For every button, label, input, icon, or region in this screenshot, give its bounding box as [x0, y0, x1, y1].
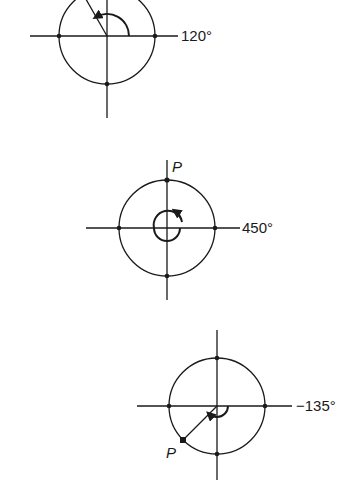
axis-point [57, 34, 62, 39]
angle-diagrams: 120° P 450° P −135° [0, 0, 350, 482]
point-p [180, 437, 186, 443]
point-label-p: P [172, 158, 182, 175]
axis-point [215, 356, 220, 361]
angle-label-450: 450° [242, 219, 273, 236]
angle-label-120: 120° [181, 27, 212, 44]
point-label-p: P [166, 444, 176, 461]
angle-label-neg135: −135° [296, 397, 336, 414]
axis-point [213, 226, 218, 231]
axis-point [105, 82, 110, 87]
diagram-450 [86, 160, 240, 300]
axis-point [215, 452, 220, 457]
point-p [164, 177, 169, 182]
axis-point [167, 404, 172, 409]
diagram-neg135 [137, 330, 292, 480]
axis-point [153, 34, 158, 39]
axis-point [117, 226, 122, 231]
axis-point [263, 404, 268, 409]
terminal-side [83, 0, 107, 36]
diagram-120 [30, 0, 178, 118]
terminal-side [183, 406, 217, 440]
axis-point [165, 274, 170, 279]
rotation-spiral [154, 211, 182, 241]
